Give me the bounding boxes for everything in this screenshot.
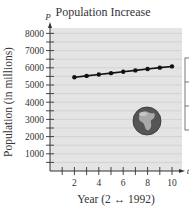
data-point xyxy=(84,74,88,78)
x-tick-label: 4 xyxy=(96,178,101,188)
x-tick-label: 2 xyxy=(72,178,77,188)
data-point xyxy=(121,70,125,74)
y-tick-label: 8000 xyxy=(25,29,44,39)
y-tick-label: 6000 xyxy=(25,63,44,73)
y-tick-label: 7000 xyxy=(25,46,44,56)
y-tick-label: 4000 xyxy=(25,98,44,108)
y-axis-arrow-icon xyxy=(48,22,52,28)
x-tick-label: 10 xyxy=(167,178,177,188)
data-point xyxy=(145,67,149,71)
data-point xyxy=(133,68,137,72)
y-tick-label: 2000 xyxy=(25,132,44,142)
x-tick-label: 6 xyxy=(121,178,126,188)
data-point xyxy=(72,75,76,79)
population-chart: Population Increase P t 1000200030004000… xyxy=(0,0,189,212)
data-point xyxy=(109,71,113,75)
data-point xyxy=(97,72,101,76)
y-tick-label: 5000 xyxy=(25,80,44,90)
cropped-table-edge xyxy=(185,58,189,130)
globe-icon xyxy=(133,107,161,135)
y-tick-label: 1000 xyxy=(25,149,44,159)
data-point xyxy=(158,65,162,69)
y-tick-label: 3000 xyxy=(25,115,44,125)
x-axis-label: Year (2 ↔ 1992) xyxy=(77,193,155,206)
plot-area xyxy=(50,28,182,171)
chart-title: Population Increase xyxy=(56,5,151,19)
data-point xyxy=(170,64,174,68)
y-axis-label: Population (in millions) xyxy=(2,47,15,157)
x-variable-label: t xyxy=(187,166,189,176)
y-variable-label: P xyxy=(44,12,51,22)
x-tick-label: 8 xyxy=(145,178,150,188)
